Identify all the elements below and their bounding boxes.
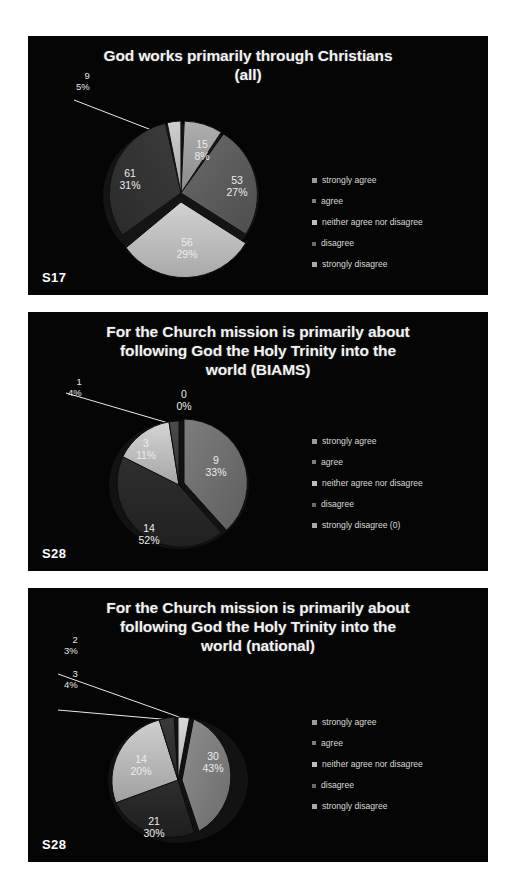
legend-item-disagree[interactable]: disagree bbox=[312, 239, 423, 248]
slice-percent-disagree: 20% bbox=[130, 765, 151, 777]
slice-percent-disagree: 11% bbox=[136, 449, 156, 461]
legend-item-strongly-agree[interactable]: strongly agree bbox=[312, 437, 423, 446]
chart-panel-s28-national: For the Church mission is primarily abou… bbox=[28, 588, 488, 862]
legend-label: agree bbox=[321, 197, 343, 206]
legend-label: disagree bbox=[321, 239, 354, 248]
panel-title-line: following God the Holy Trinity into the bbox=[63, 341, 453, 360]
slice-percent-agree: 43% bbox=[202, 762, 223, 774]
legend-item-neither-agree-nor-disagree[interactable]: neither agree nor disagree bbox=[312, 218, 423, 227]
legend-swatch-icon bbox=[312, 439, 317, 444]
legend-swatch-icon bbox=[312, 523, 317, 528]
pie-chart-s17: 15 8% 53 27% 56 29% 61 31% bbox=[36, 78, 316, 283]
legend-swatch-icon bbox=[312, 220, 317, 225]
legend-label: disagree bbox=[321, 500, 354, 509]
slice-percent-neither: 29% bbox=[176, 248, 197, 260]
chart-legend: strongly agree agree neither agree nor d… bbox=[312, 176, 423, 281]
slice-percent-disagree: 31% bbox=[119, 179, 140, 191]
slice-value-neither: 14 bbox=[143, 522, 155, 534]
slice-percent-neither: 30% bbox=[143, 827, 164, 839]
legend-item-disagree[interactable]: disagree bbox=[312, 500, 423, 509]
slice-percent-neither: 52% bbox=[138, 534, 159, 546]
callout-leader-line bbox=[66, 393, 182, 427]
legend-item-strongly-disagree[interactable]: strongly disagree bbox=[312, 802, 423, 811]
legend-label: strongly agree bbox=[322, 437, 376, 446]
slice-value-agree: 9 bbox=[213, 454, 219, 466]
legend-swatch-icon bbox=[312, 262, 317, 267]
legend-swatch-icon bbox=[312, 481, 317, 486]
legend-label: strongly agree bbox=[322, 718, 376, 727]
slice-value-agree: 53 bbox=[231, 174, 243, 186]
legend-label: strongly disagree bbox=[322, 260, 387, 269]
legend-swatch-icon bbox=[312, 503, 316, 507]
legend-swatch-icon bbox=[312, 784, 316, 788]
legend-swatch-icon bbox=[312, 460, 316, 464]
pie-svg: 15 8% 53 27% 56 29% 61 31% bbox=[36, 78, 316, 283]
legend-item-neither-agree-nor-disagree[interactable]: neither agree nor disagree bbox=[312, 479, 423, 488]
panel-title-line: God works primarily through Christians bbox=[83, 46, 413, 65]
legend-swatch-icon bbox=[312, 741, 316, 745]
legend-label: neither agree nor disagree bbox=[322, 218, 423, 227]
slice-value-strongly-agree: 15 bbox=[196, 138, 208, 150]
slide-tag: S17 bbox=[42, 270, 66, 285]
slice-value-disagree: 14 bbox=[135, 753, 147, 765]
panel-title-line: world (national) bbox=[63, 636, 453, 655]
legend-swatch-icon bbox=[312, 178, 317, 183]
legend-label: disagree bbox=[321, 781, 354, 790]
panel-title-line: For the Church mission is primarily abou… bbox=[63, 598, 453, 617]
callout-leader-line-strongly-disagree bbox=[58, 710, 172, 720]
legend-label: strongly disagree bbox=[322, 802, 387, 811]
pie-chart-s28-biams: 0 0% 9 33% 14 52% 3 11% bbox=[36, 370, 316, 565]
legend-item-strongly-agree[interactable]: strongly agree bbox=[312, 718, 423, 727]
legend-swatch-icon bbox=[312, 242, 316, 246]
slice-value-strongly-agree: 0 bbox=[181, 388, 187, 400]
chart-panel-s17: God works primarily through Christians (… bbox=[28, 36, 488, 295]
slice-percent-agree: 27% bbox=[226, 186, 247, 198]
legend-item-agree[interactable]: agree bbox=[312, 458, 423, 467]
slice-percent-strongly-agree: 0% bbox=[176, 400, 191, 412]
legend-label: neither agree nor disagree bbox=[322, 479, 423, 488]
legend-label: strongly disagree (0) bbox=[322, 521, 400, 530]
chart-legend: strongly agree agree neither agree nor d… bbox=[312, 718, 423, 823]
legend-item-disagree[interactable]: disagree bbox=[312, 781, 423, 790]
slice-value-neither: 21 bbox=[148, 815, 160, 827]
callout-percent: 3% bbox=[64, 645, 78, 656]
legend-item-agree[interactable]: agree bbox=[312, 739, 423, 748]
legend-swatch-icon bbox=[312, 762, 317, 767]
legend-item-strongly-disagree[interactable]: strongly disagree bbox=[312, 260, 423, 269]
legend-item-agree[interactable]: agree bbox=[312, 197, 423, 206]
legend-item-neither-agree-nor-disagree[interactable]: neither agree nor disagree bbox=[312, 760, 423, 769]
legend-label: strongly agree bbox=[322, 176, 376, 185]
legend-label: neither agree nor disagree bbox=[322, 760, 423, 769]
slice-value-agree: 30 bbox=[207, 750, 219, 762]
panel-title-line: For the Church mission is primarily abou… bbox=[63, 322, 453, 341]
slide-deck-page: God works primarily through Christians (… bbox=[0, 0, 516, 882]
slide-tag: S28 bbox=[42, 837, 66, 852]
legend-item-strongly-agree[interactable]: strongly agree bbox=[312, 176, 423, 185]
slide-tag: S28 bbox=[42, 546, 66, 561]
pie-chart-s28-national: 30 43% 21 30% 14 20% bbox=[36, 658, 316, 858]
slice-value-disagree: 61 bbox=[124, 167, 136, 179]
slice-value-neither: 56 bbox=[181, 236, 193, 248]
panel-title: For the Church mission is primarily abou… bbox=[63, 598, 453, 655]
panel-title-line: following God the Holy Trinity into the bbox=[63, 617, 453, 636]
legend-label: agree bbox=[321, 458, 343, 467]
chart-panel-s28-biams: For the Church mission is primarily abou… bbox=[28, 312, 488, 571]
callout-label-strongly-agree: 2 3% bbox=[64, 634, 78, 656]
chart-legend: strongly agree agree neither agree nor d… bbox=[312, 437, 423, 542]
legend-swatch-icon bbox=[312, 199, 316, 203]
slice-percent-strongly-agree: 8% bbox=[194, 150, 209, 162]
pie-svg: 30 43% 21 30% 14 20% bbox=[36, 658, 316, 858]
slice-value-disagree: 3 bbox=[143, 437, 149, 449]
slice-percent-agree: 33% bbox=[205, 466, 226, 478]
legend-item-strongly-disagree[interactable]: strongly disagree (0) bbox=[312, 521, 423, 530]
callout-value: 2 bbox=[64, 634, 78, 645]
legend-swatch-icon bbox=[312, 804, 317, 809]
legend-swatch-icon bbox=[312, 720, 317, 725]
legend-label: agree bbox=[321, 739, 343, 748]
pie-svg: 0 0% 9 33% 14 52% 3 11% bbox=[36, 370, 316, 565]
